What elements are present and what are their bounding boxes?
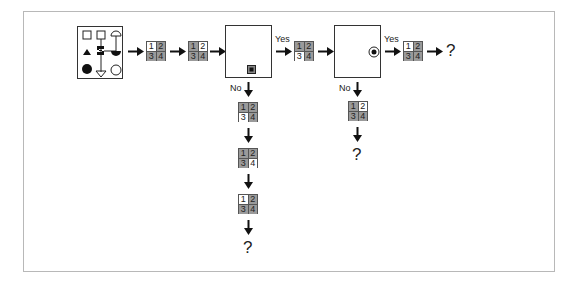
decision-box-1 (225, 25, 272, 78)
bullseye-marker-icon (368, 46, 380, 58)
grid-cell: 2 (359, 102, 368, 111)
grid-c: 1 2 3 4 (294, 41, 314, 61)
grid-cell: 4 (414, 52, 423, 61)
symbols-icon (78, 27, 124, 80)
arrow-right-icon (210, 47, 226, 56)
grid-cell: 1 (239, 195, 248, 204)
arrow-down-icon (244, 174, 253, 189)
no-label: No (339, 83, 351, 93)
grid-cell: 4 (249, 159, 258, 168)
grid-cell: 2 (249, 103, 258, 112)
grid-cell: 2 (414, 42, 423, 51)
grid-cell: 1 (349, 102, 358, 111)
arrow-down-icon (244, 128, 253, 143)
question-mark: ? (243, 239, 252, 256)
arrow-right-icon (276, 47, 292, 56)
grid-cell: 4 (249, 113, 258, 122)
arrow-down-icon (244, 220, 253, 235)
grid-cell: 4 (157, 52, 166, 61)
grid-cell: 1 (189, 42, 198, 51)
grid-cell: 3 (189, 52, 198, 61)
arrow-right-icon (385, 47, 401, 56)
symbol-panel (77, 26, 123, 79)
grid-cell: 3 (239, 159, 248, 168)
grid-d: 1 2 3 4 (403, 41, 423, 61)
grid-a: 1 2 3 4 (146, 41, 166, 61)
grid-cell: 3 (404, 52, 413, 61)
grid-b: 1 2 3 4 (188, 41, 208, 61)
grid-cell: 3 (295, 52, 304, 61)
arrow-down-icon (353, 127, 362, 142)
grid-cell: 3 (239, 205, 248, 214)
grid-cell: 3 (349, 112, 358, 121)
arrow-down-icon (353, 82, 362, 97)
yes-label: Yes (275, 34, 290, 44)
grid-cell: 1 (404, 42, 413, 51)
grid-cell: 2 (249, 195, 258, 204)
grid-f: 1 2 3 4 (238, 148, 258, 168)
question-mark: ? (352, 146, 361, 163)
grid-cell: 2 (157, 42, 166, 51)
arrow-down-icon (244, 82, 253, 97)
grid-cell: 1 (295, 42, 304, 51)
grid-cell: 3 (239, 113, 248, 122)
question-mark: ? (446, 42, 455, 59)
grid-cell: 4 (305, 52, 314, 61)
grid-cell: 2 (305, 42, 314, 51)
arrow-right-icon (128, 47, 144, 56)
decision-box-2 (334, 25, 381, 78)
yes-label: Yes (384, 34, 399, 44)
grid-g: 1 2 3 4 (238, 194, 258, 214)
arrow-right-icon (427, 47, 443, 56)
arrow-right-icon (170, 47, 186, 56)
grid-cell: 4 (199, 52, 208, 61)
no-label: No (230, 83, 242, 93)
grid-e: 1 2 3 4 (238, 102, 258, 122)
filled-square-marker-icon (247, 65, 257, 75)
grid-h: 1 2 3 4 (348, 101, 368, 121)
grid-cell: 2 (249, 149, 258, 158)
grid-cell: 2 (199, 42, 208, 51)
arrow-right-icon (318, 47, 334, 56)
grid-cell: 3 (147, 52, 156, 61)
grid-cell: 4 (359, 112, 368, 121)
grid-cell: 1 (239, 103, 248, 112)
grid-cell: 4 (249, 205, 258, 214)
grid-cell: 1 (147, 42, 156, 51)
grid-cell: 1 (239, 149, 248, 158)
